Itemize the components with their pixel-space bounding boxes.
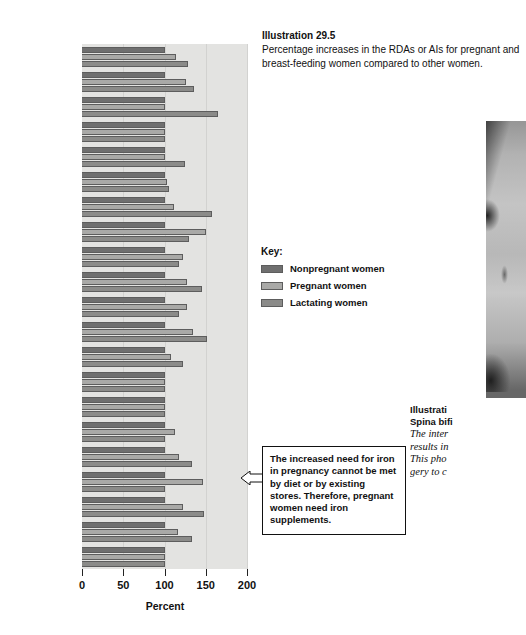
bar-group (82, 147, 247, 168)
bar-group (82, 397, 247, 418)
bar-group (82, 72, 247, 93)
photo-shadow (486, 199, 500, 232)
bar (82, 329, 193, 335)
bar (82, 511, 204, 517)
legend-item-lactating: Lactating women (261, 297, 401, 308)
x-tick-label: 0 (79, 579, 85, 591)
bar (82, 429, 175, 435)
bar (82, 236, 189, 242)
legend-swatch-icon (261, 265, 283, 273)
photo-caption-line: Spina bifi (410, 416, 526, 428)
bar (82, 254, 183, 260)
legend-swatch-icon (261, 282, 283, 290)
bar (82, 447, 165, 453)
bar (82, 111, 218, 117)
bar-group (82, 222, 247, 243)
photo-detail (501, 265, 507, 284)
bar (82, 479, 203, 485)
bar (82, 354, 171, 360)
bar-group (82, 472, 247, 493)
bar-group (82, 322, 247, 343)
bar (82, 79, 186, 85)
bar (82, 179, 167, 185)
legend-label: Nonpregnant women (290, 263, 384, 274)
bar-group (82, 122, 247, 143)
bar (82, 97, 165, 103)
bar (82, 336, 207, 342)
bar (82, 504, 183, 510)
x-tick (82, 569, 83, 576)
bar (82, 397, 165, 403)
x-axis-title: Percent (82, 600, 248, 612)
bar (82, 204, 174, 210)
chart-legend: Key: Nonpregnant women Pregnant women La… (261, 246, 401, 314)
bar (82, 472, 165, 478)
bar (82, 529, 178, 535)
bar (82, 379, 165, 385)
bar (82, 386, 165, 392)
bar (82, 304, 187, 310)
x-tick-label: 150 (197, 579, 215, 591)
photo-caption-line: Illustrati (410, 404, 526, 416)
bar (82, 61, 188, 67)
bar (82, 72, 165, 78)
bar (82, 411, 165, 417)
legend-label: Lactating women (290, 297, 368, 308)
legend-swatch-icon (261, 299, 283, 307)
bar (82, 129, 165, 135)
caption-number: Illustration 29.5 (262, 30, 524, 41)
photo-caption-line: This pho (410, 453, 526, 466)
bar (82, 54, 176, 60)
bar (82, 497, 165, 503)
x-tick-label: 100 (155, 579, 173, 591)
bar (82, 422, 165, 428)
bar (82, 461, 192, 467)
bar-group (82, 97, 247, 118)
bar (82, 436, 165, 442)
legend-item-pregnant: Pregnant women (261, 280, 401, 291)
bar (82, 222, 165, 228)
bar-group (82, 197, 247, 218)
bar-group (82, 297, 247, 318)
bar (82, 279, 187, 285)
bar (82, 147, 165, 153)
bar (82, 211, 212, 217)
bar-group (82, 547, 247, 568)
bar (82, 122, 165, 128)
x-tick (206, 569, 207, 576)
bar-group (82, 447, 247, 468)
spina-bifida-photo (486, 121, 526, 398)
gridline (247, 44, 248, 569)
bar (82, 136, 165, 142)
bar-group (82, 347, 247, 368)
bar (82, 247, 165, 253)
bar (82, 47, 165, 53)
bar (82, 547, 165, 553)
legend-title: Key: (261, 246, 401, 257)
bar (82, 372, 165, 378)
bar (82, 154, 165, 160)
legend-label: Pregnant women (290, 280, 367, 291)
photo-caption-line: gery to c (410, 466, 526, 479)
x-tick (123, 569, 124, 576)
legend-item-nonpregnant: Nonpregnant women (261, 263, 401, 274)
x-tick (247, 569, 248, 576)
x-tick (165, 569, 166, 576)
bar (82, 161, 185, 167)
bar-group (82, 247, 247, 268)
x-tick-label: 200 (238, 579, 256, 591)
bar (82, 86, 194, 92)
caption-text: Percentage increases in the RDAs or AIs … (262, 43, 524, 70)
bar (82, 297, 165, 303)
bar (82, 311, 179, 317)
bar-chart-figure: 050100150200 Percent EnergyProteinVitami… (0, 0, 256, 635)
bar-group (82, 272, 247, 293)
photo-caption: Illustrati Spina bifi The inter results … (410, 404, 526, 478)
photo-caption-line: results in (410, 441, 526, 454)
bar (82, 486, 165, 492)
bar-group (82, 422, 247, 443)
bar (82, 272, 165, 278)
bar-group (82, 372, 247, 393)
bars-layer (82, 44, 247, 569)
bar-group (82, 497, 247, 518)
